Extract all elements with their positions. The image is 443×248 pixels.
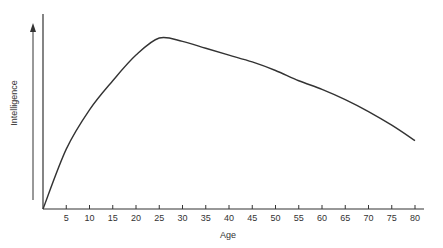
x-tick-label: 30	[173, 213, 193, 223]
chart: Intelligence Age 51015202530354045505560…	[0, 0, 443, 248]
x-tick-label: 10	[80, 213, 100, 223]
x-tick-label: 60	[312, 213, 332, 223]
x-tick-label: 45	[242, 213, 262, 223]
up-arrow-icon	[30, 23, 36, 32]
plot-area	[0, 0, 443, 248]
x-tick-label: 20	[126, 213, 146, 223]
x-tick-label: 75	[382, 213, 402, 223]
x-tick-label: 55	[289, 213, 309, 223]
x-tick-label: 15	[103, 213, 123, 223]
intelligence-curve	[43, 37, 415, 209]
x-tick-label: 50	[266, 213, 286, 223]
x-axis-label: Age	[220, 230, 236, 240]
x-tick-label: 40	[219, 213, 239, 223]
x-tick-label: 70	[359, 213, 379, 223]
x-tick-label: 35	[196, 213, 216, 223]
x-tick-label: 80	[405, 213, 425, 223]
x-tick-label: 65	[335, 213, 355, 223]
x-tick-label: 25	[149, 213, 169, 223]
x-tick-label: 5	[56, 213, 76, 223]
y-axis-label: Intelligence	[9, 73, 23, 133]
